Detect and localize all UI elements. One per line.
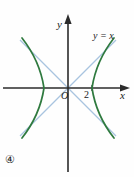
y-axis-arrowhead — [64, 14, 71, 24]
x-tick-2-label: 2 — [84, 90, 89, 100]
y-axis-label: y — [57, 19, 62, 30]
hyperbola-figure: y x O 2 y = x ④ — [0, 0, 134, 177]
asymptote-equation-label: y = x — [93, 31, 114, 41]
figure-number-label: ④ — [5, 154, 15, 165]
x-axis-label: x — [120, 90, 125, 101]
origin-label: O — [61, 91, 68, 101]
plot-canvas — [0, 0, 134, 177]
